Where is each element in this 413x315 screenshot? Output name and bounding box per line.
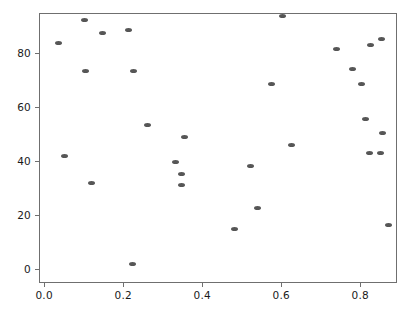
data-point xyxy=(247,164,254,168)
data-point xyxy=(367,43,374,47)
y-tick-label: 40 xyxy=(17,155,31,167)
data-point xyxy=(349,67,356,71)
data-point xyxy=(130,69,137,73)
data-point xyxy=(172,160,179,164)
data-point xyxy=(362,117,369,121)
data-point xyxy=(82,69,89,73)
data-point xyxy=(88,181,95,185)
data-point xyxy=(379,131,386,135)
data-point xyxy=(144,123,151,127)
y-tick-mark xyxy=(35,269,39,270)
data-point xyxy=(268,82,275,86)
x-tick-mark xyxy=(123,283,124,287)
x-tick-mark xyxy=(281,283,282,287)
data-point xyxy=(178,183,185,187)
x-tick-label: 0.2 xyxy=(115,289,132,301)
data-point xyxy=(385,223,392,227)
plot-area xyxy=(39,13,397,283)
x-tick-label: 0.8 xyxy=(352,289,369,301)
data-point xyxy=(125,28,132,32)
x-tick-label: 0.6 xyxy=(273,289,290,301)
x-tick-label: 0.0 xyxy=(35,289,52,301)
data-point xyxy=(377,151,384,155)
x-tick-mark xyxy=(44,283,45,287)
y-tick-label: 20 xyxy=(17,209,31,221)
data-point xyxy=(129,262,136,266)
data-point xyxy=(181,135,188,139)
x-tick-label: 0.4 xyxy=(194,289,211,301)
data-point xyxy=(279,14,286,18)
data-point xyxy=(366,151,373,155)
y-tick-mark xyxy=(35,107,39,108)
data-point xyxy=(55,41,62,45)
y-tick-label: 80 xyxy=(17,47,31,59)
data-point xyxy=(358,82,365,86)
y-tick-mark xyxy=(35,161,39,162)
data-point xyxy=(231,227,238,231)
data-point xyxy=(178,172,185,176)
data-points-layer xyxy=(40,14,396,282)
data-point xyxy=(378,37,385,41)
y-tick-mark xyxy=(35,215,39,216)
data-point xyxy=(61,154,68,158)
y-tick-mark xyxy=(35,53,39,54)
x-tick-mark xyxy=(202,283,203,287)
x-tick-mark xyxy=(360,283,361,287)
scatter-plot-figure: 0.00.20.40.60.8 020406080 xyxy=(0,0,413,315)
data-point xyxy=(333,47,340,51)
y-tick-label: 60 xyxy=(17,101,31,113)
data-point xyxy=(81,18,88,22)
data-point xyxy=(288,143,295,147)
data-point xyxy=(254,206,261,210)
y-tick-label: 0 xyxy=(24,263,31,275)
data-point xyxy=(99,31,106,35)
